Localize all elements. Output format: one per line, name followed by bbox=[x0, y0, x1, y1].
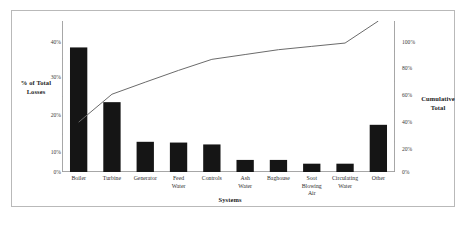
bar bbox=[303, 164, 320, 172]
y-axis-left-title: % of Total Losses bbox=[12, 79, 60, 96]
bar bbox=[170, 143, 187, 172]
x-axis-category-labels: BoilerTurbineGeneratorFeed WaterControls… bbox=[62, 175, 395, 205]
bar bbox=[270, 160, 287, 172]
bar bbox=[336, 164, 353, 172]
bar bbox=[370, 125, 387, 172]
cumulative-line-group bbox=[79, 21, 379, 122]
y-right-tick-20: 20% bbox=[402, 146, 426, 152]
bar bbox=[203, 144, 220, 172]
x-category-label: Baghouse bbox=[262, 175, 295, 183]
x-category-label: Other bbox=[362, 175, 395, 183]
y-right-title-line1: Cumulative bbox=[421, 95, 455, 102]
x-category-label: Turbine bbox=[95, 175, 128, 183]
bar bbox=[70, 47, 87, 172]
y-right-tick-80: 80% bbox=[402, 65, 426, 71]
y-right-tick-40: 40% bbox=[402, 119, 426, 125]
y-right-tick-100: 100% bbox=[402, 39, 426, 45]
x-category-label: Boiler bbox=[62, 175, 95, 183]
plot-area bbox=[62, 21, 395, 172]
chart-page: 40% 30% 20% 10% 0% 100% 80% 60% 40% 20% … bbox=[0, 0, 468, 235]
bar bbox=[103, 102, 120, 172]
bar bbox=[236, 160, 253, 172]
x-category-label: Soot Blowing Air bbox=[295, 175, 328, 198]
x-category-label: Controls bbox=[195, 175, 228, 183]
x-category-label: Ash Water bbox=[229, 175, 262, 190]
x-category-label: Generator bbox=[129, 175, 162, 183]
chart-svg bbox=[62, 21, 395, 172]
y-left-title-line1: % of Total bbox=[21, 79, 51, 86]
y-left-tick-20: 20% bbox=[39, 112, 61, 118]
bars-group bbox=[70, 47, 387, 172]
y-left-tick-10: 10% bbox=[39, 149, 61, 155]
y-axis-right-title: Cumulative Total bbox=[414, 95, 462, 112]
y-left-tick-0: 0% bbox=[39, 169, 61, 175]
y-right-title-line2: Total bbox=[431, 104, 446, 111]
x-category-label: Circulating Water bbox=[328, 175, 361, 190]
y-left-title-line2: Losses bbox=[27, 88, 46, 95]
x-category-label: Feed Water bbox=[162, 175, 195, 190]
y-right-tick-0: 0% bbox=[402, 169, 426, 175]
bar bbox=[137, 142, 154, 172]
y-left-tick-40: 40% bbox=[39, 39, 61, 45]
cumulative-line bbox=[79, 21, 379, 122]
